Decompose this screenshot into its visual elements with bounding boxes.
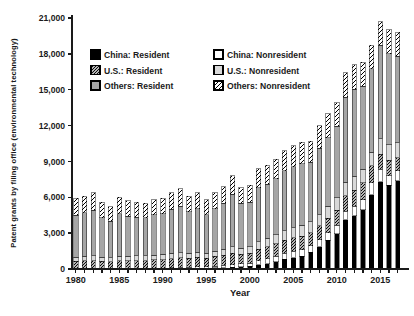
bar-2017-us-nonresident xyxy=(396,143,400,158)
bar-2005-china-resident xyxy=(291,258,295,269)
bar-1998-others-resident xyxy=(230,194,234,246)
bar-2003-china-resident xyxy=(274,262,278,269)
bar-1987-others-nonresident xyxy=(135,202,139,217)
bar-2005-us-resident xyxy=(291,238,295,251)
bar-1987-others-resident xyxy=(135,217,139,256)
bar-1993-us-resident xyxy=(187,258,191,267)
bar-1985-us-nonresident xyxy=(117,256,121,261)
bar-1998-us-nonresident xyxy=(230,247,234,254)
bar-2013-others-resident xyxy=(361,86,365,169)
y-tick-label-6000: 6,000 xyxy=(43,192,65,202)
bar-1986-others-resident xyxy=(126,216,130,256)
bar-1993-others-resident xyxy=(187,212,191,254)
bar-2011-china-nonresident xyxy=(343,211,347,220)
bar-1989-us-resident xyxy=(152,260,156,268)
bar-2013-china-nonresident xyxy=(361,200,365,210)
bar-1994-others-nonresident xyxy=(195,193,199,209)
x-tick-label-2015: 2015 xyxy=(370,275,390,285)
bar-2010-others-resident xyxy=(335,126,339,198)
bar-1995-others-resident xyxy=(204,215,208,254)
bar-1986-others-nonresident xyxy=(126,201,130,216)
bar-2011-china-resident xyxy=(343,220,347,269)
bar-1997-others-nonresident xyxy=(222,187,226,204)
bar-1987-us-nonresident xyxy=(135,256,139,261)
chart-svg: 03,0006,0009,00012,00015,00018,00021,000… xyxy=(0,0,414,316)
bar-2006-others-resident xyxy=(300,164,304,226)
legend-label-china-nonresident: China: Nonresident xyxy=(227,50,306,60)
bar-1999-china-nonresident xyxy=(239,264,243,267)
bar-1995-others-nonresident xyxy=(204,200,208,215)
y-tick-label-0: 0 xyxy=(60,264,65,274)
bar-2003-us-nonresident xyxy=(274,235,278,244)
bar-2003-china-nonresident xyxy=(274,256,278,261)
bar-2014-us-resident xyxy=(369,166,373,183)
bar-2017-others-resident xyxy=(396,56,400,143)
bar-2011-us-nonresident xyxy=(343,182,347,195)
x-tick-label-1980: 1980 xyxy=(66,275,86,285)
bar-2013-us-nonresident xyxy=(361,169,365,183)
bar-1984-others-nonresident xyxy=(108,207,112,221)
bar-1982-others-nonresident xyxy=(91,193,95,211)
bar-2002-us-nonresident xyxy=(265,238,269,246)
bar-1982-others-resident xyxy=(91,210,95,255)
bar-2014-others-resident xyxy=(369,69,373,153)
bar-2000-us-resident xyxy=(248,253,252,263)
patent-grants-chart: Patent grants by filing office (environm… xyxy=(0,0,414,316)
bar-2006-china-nonresident xyxy=(300,250,304,257)
bar-1991-others-resident xyxy=(169,209,173,253)
bar-2016-others-nonresident xyxy=(387,30,391,54)
bar-2015-others-nonresident xyxy=(378,22,382,46)
bar-1996-us-resident xyxy=(213,256,217,266)
bar-2003-others-resident xyxy=(274,179,278,235)
bar-1992-us-nonresident xyxy=(178,253,182,258)
bar-2006-china-resident xyxy=(300,256,304,269)
bar-2007-china-resident xyxy=(309,252,313,269)
legend-label-china-resident: China: Resident xyxy=(104,50,170,60)
bar-1997-others-resident xyxy=(222,203,226,249)
bar-2005-others-resident xyxy=(291,167,295,228)
bar-2015-us-nonresident xyxy=(378,139,382,155)
legend-label-us-nonresident: U.S.: Nonresident xyxy=(227,66,299,76)
bar-1986-us-resident xyxy=(126,261,130,269)
bar-1985-us-resident xyxy=(117,261,121,269)
bar-2007-us-resident xyxy=(309,233,313,246)
bar-2004-china-resident xyxy=(282,259,286,269)
bar-2001-us-resident xyxy=(256,249,260,260)
bar-1997-us-resident xyxy=(222,255,226,265)
bar-1985-others-resident xyxy=(117,214,121,256)
bar-2009-us-nonresident xyxy=(326,206,330,218)
bar-1994-others-resident xyxy=(195,209,199,253)
bar-2010-us-resident xyxy=(335,210,339,225)
legend-label-others-resident: Others: Resident xyxy=(104,81,173,91)
bar-1993-others-nonresident xyxy=(187,196,191,212)
legend-swatch-others-resident xyxy=(91,81,100,90)
bar-2016-china-resident xyxy=(387,185,391,269)
bar-1992-others-resident xyxy=(178,206,182,252)
bar-2000-china-nonresident xyxy=(248,263,252,266)
bar-1990-others-resident xyxy=(161,214,165,255)
bar-2008-us-nonresident xyxy=(317,215,321,226)
bar-1993-us-nonresident xyxy=(187,253,191,258)
bar-1988-others-resident xyxy=(143,218,147,256)
bar-2006-us-resident xyxy=(300,236,304,250)
bar-1984-us-nonresident xyxy=(108,258,112,262)
bar-1983-others-nonresident xyxy=(100,202,104,218)
bar-2003-us-resident xyxy=(274,244,278,257)
bar-2004-china-nonresident xyxy=(282,253,286,259)
bar-2002-us-resident xyxy=(265,247,269,259)
bar-2016-us-resident xyxy=(387,160,391,176)
bar-2015-others-resident xyxy=(378,45,382,138)
bar-2012-others-nonresident xyxy=(352,65,356,90)
bar-2008-us-resident xyxy=(317,226,321,240)
legend-swatch-china-nonresident xyxy=(214,50,223,59)
bar-1991-us-resident xyxy=(169,259,173,268)
bar-1992-others-nonresident xyxy=(178,189,182,206)
bar-2012-china-nonresident xyxy=(352,206,356,216)
bar-1981-others-resident xyxy=(82,213,86,257)
bar-1990-others-nonresident xyxy=(161,198,165,213)
bar-2017-us-resident xyxy=(396,158,400,171)
bar-2016-us-nonresident xyxy=(387,145,391,161)
legend-label-us-resident: U.S.: Resident xyxy=(104,66,162,76)
bar-2016-china-nonresident xyxy=(387,176,391,186)
bar-2012-others-resident xyxy=(352,89,356,176)
